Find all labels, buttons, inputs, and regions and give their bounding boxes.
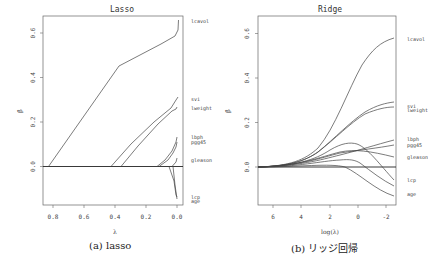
ridge-xtick: 4 (299, 213, 303, 220)
lasso-plot-frame (43, 16, 183, 205)
lasso-ytick: 0.6 (29, 27, 36, 38)
ridge-path-age (258, 165, 394, 196)
ridge-panel: Ridge 0.0 0.2 0.4 0.6 β̂ 6 4 2 0 -2 log(… (224, 5, 428, 236)
lasso-y-axis: 0.0 0.2 0.4 0.6 β̂ (16, 27, 43, 172)
ridge-path-lbph (258, 140, 394, 167)
lasso-xtick: 0.0 (172, 213, 183, 220)
lasso-path-age (173, 167, 177, 200)
lasso-ylabel: β̂ (16, 109, 24, 113)
lasso-xtick: 0.8 (48, 213, 59, 220)
ridge-paths (258, 38, 394, 196)
ridge-title: Ridge (318, 5, 342, 14)
ridge-ytick: 0.0 (243, 161, 250, 172)
lasso-label-lcavol: lcavol (191, 18, 209, 24)
lasso-xtick: 0.2 (141, 213, 152, 220)
ridge-path-lcp (258, 160, 394, 186)
lasso-label-gleason: gleason (191, 157, 212, 164)
ridge-xtick: 0 (356, 213, 360, 220)
lasso-title: Lasso (110, 5, 134, 14)
lasso-xtick: 0.6 (79, 213, 90, 220)
figure: Lasso 0.0 0.2 0.4 0.6 β̂ 0.8 0.6 0.4 0.2 (0, 0, 428, 261)
ridge-x-axis: 6 4 2 0 -2 log(λ) (271, 205, 390, 236)
ridge-ytick: 0.4 (243, 72, 250, 83)
lasso-xlabel: λ (113, 228, 117, 235)
ridge-ytick: 0.6 (243, 28, 250, 39)
lasso-label-pgg45: pgg45 (191, 139, 206, 146)
lasso-ytick: 0.0 (29, 161, 36, 172)
ridge-caption: (b) リッジ回帰 (291, 240, 358, 255)
lasso-ytick: 0.4 (29, 72, 36, 83)
ridge-ytick: 0.2 (243, 117, 250, 128)
ridge-label-age: age (407, 191, 416, 198)
lasso-end-labels: lcavol svi lweight lbph pgg45 gleason lc… (191, 18, 212, 205)
ridge-ylabel: β̂ (224, 109, 232, 113)
ridge-label-lcp: lcp (407, 177, 416, 184)
ridge-label-gleason: gleason (407, 154, 428, 161)
lasso-label-svi: svi (191, 96, 200, 102)
ridge-label-lweight: lweight (407, 107, 428, 114)
ridge-xtick: -2 (382, 213, 390, 220)
lasso-label-age: age (191, 198, 200, 205)
lasso-path-lcavol (49, 20, 179, 167)
lasso-caption: (a) lasso (89, 240, 131, 251)
lasso-panel: Lasso 0.0 0.2 0.4 0.6 β̂ 0.8 0.6 0.4 0.2 (16, 5, 212, 235)
ridge-xlabel: log(λ) (321, 228, 339, 236)
lasso-paths (49, 20, 179, 199)
lasso-path-gleason (172, 158, 177, 167)
ridge-label-pgg45: pgg45 (407, 142, 422, 149)
ridge-end-labels: lcavol svi lweight lbph pgg45 gleason lc… (407, 36, 428, 198)
ridge-xtick: 6 (271, 213, 275, 220)
ridge-y-axis: 0.0 0.2 0.4 0.6 β̂ (224, 28, 258, 173)
lasso-x-axis: 0.8 0.6 0.4 0.2 0.0 λ (48, 205, 183, 235)
ridge-path-lcavol (258, 38, 394, 167)
ridge-label-lcavol: lcavol (407, 36, 425, 42)
lasso-ytick: 0.2 (29, 116, 36, 127)
lasso-label-lweight: lweight (191, 105, 212, 112)
lasso-xtick: 0.4 (110, 213, 121, 220)
lasso-path-lweight (121, 107, 177, 167)
ridge-xtick: 2 (328, 213, 332, 220)
